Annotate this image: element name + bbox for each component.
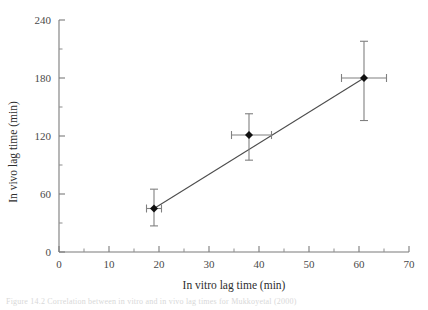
- ticks-group: [59, 20, 409, 252]
- y-tick-label-60: 60: [40, 188, 52, 200]
- y-tick-label-240: 240: [35, 14, 52, 26]
- y-tick-label-180: 180: [35, 72, 52, 84]
- x-tick-label-60: 60: [354, 258, 366, 270]
- x-tick-label-70: 70: [404, 258, 416, 270]
- scatter-plot: 010203040506070060120180240 In vitro lag…: [0, 0, 428, 310]
- x-tick-label-40: 40: [254, 258, 266, 270]
- data-point-2: [360, 74, 368, 82]
- regression-line: [154, 78, 364, 209]
- x-tick-label-0: 0: [56, 258, 62, 270]
- figure-container: 010203040506070060120180240 In vitro lag…: [0, 0, 428, 310]
- y-axis-title: In vivo lag time (min): [7, 101, 20, 203]
- x-tick-label-50: 50: [304, 258, 316, 270]
- fit-line: [154, 78, 364, 209]
- y-tick-label-120: 120: [35, 130, 52, 142]
- x-tick-label-10: 10: [104, 258, 116, 270]
- figure-caption: Figure 14.2 Correlation between in vitro…: [0, 297, 428, 307]
- x-tick-label-30: 30: [204, 258, 216, 270]
- data-point-0: [150, 205, 158, 213]
- tick-labels-group: 010203040506070060120180240: [35, 14, 416, 270]
- x-axis-title: In vitro lag time (min): [183, 279, 286, 292]
- data-point-1: [245, 131, 253, 139]
- error-bars-group: [147, 41, 387, 226]
- x-tick-label-20: 20: [154, 258, 166, 270]
- y-tick-label-0: 0: [46, 246, 52, 258]
- axes-group: [59, 20, 409, 252]
